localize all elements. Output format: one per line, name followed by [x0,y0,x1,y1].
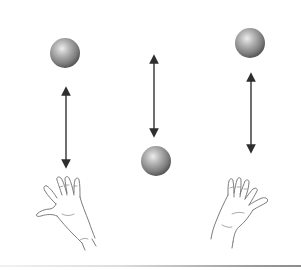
ball-icon [235,28,265,58]
ball-icon [50,38,80,68]
scene-middle [141,59,171,176]
right-hand-icon [211,178,268,248]
scene-right [211,28,268,248]
bottom-rule [0,265,301,267]
left-hand-icon [36,177,96,250]
ball-icon [141,146,171,176]
scene-left [36,38,96,250]
juggling-diagram [0,0,301,270]
diagram-canvas [0,0,301,270]
